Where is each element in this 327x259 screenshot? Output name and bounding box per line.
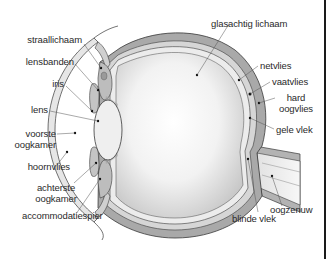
lens — [94, 100, 122, 160]
label-iris: iris — [12, 78, 64, 89]
label-hard-oogvlies-line2: oogvlies — [276, 103, 316, 114]
eye-diagram: straallichaam lensbanden iris lens voors… — [0, 0, 327, 259]
label-straallichaam: straallichaam — [12, 34, 82, 45]
label-accommodatiespier: accommodatiespier — [22, 210, 103, 221]
right-border-line — [324, 0, 326, 259]
label-hard-oogvlies-line1: hard — [276, 92, 316, 103]
label-lensbanden: lensbanden — [12, 56, 74, 67]
label-oogzenuw: oogzenuw — [270, 204, 313, 215]
label-achterste-oogkamer-line1: achterste — [28, 182, 84, 193]
label-voorste-oogkamer-line1: voorste — [8, 128, 56, 139]
label-glasachtig-lichaam: glasachtig lichaam — [211, 18, 287, 29]
label-vaatvlies: vaatvlies — [272, 76, 308, 87]
vitreous-body — [116, 52, 244, 218]
label-lens: lens — [12, 104, 48, 115]
label-achterste-oogkamer-line2: oogkamer — [28, 193, 84, 204]
label-hoornvlies: hoornvlies — [8, 161, 70, 172]
label-gele-vlek: gele vlek — [276, 124, 313, 135]
label-blinde-vlek: blinde vlek — [232, 213, 276, 224]
label-voorste-oogkamer-line2: oogkamer — [8, 139, 56, 150]
optic-nerve — [255, 146, 300, 212]
label-netvlies: netvlies — [260, 60, 291, 71]
